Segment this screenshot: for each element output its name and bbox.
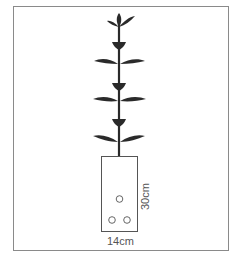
- leaf-bud-icon: [112, 83, 126, 91]
- pot-width-label: 14cm: [107, 235, 134, 247]
- leaf-bud-icon: [112, 42, 126, 50]
- pot: [102, 157, 138, 232]
- top-sprout: [107, 13, 135, 27]
- pot-height-label: 30cm: [139, 183, 151, 210]
- plant-pot-diagram: [0, 0, 236, 261]
- leaf-bud-icon: [112, 119, 126, 127]
